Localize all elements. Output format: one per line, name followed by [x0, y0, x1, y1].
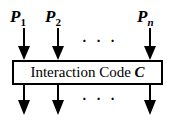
interaction-code-box: Interaction Code C: [12, 60, 163, 85]
input-ellipsis: · · ·: [82, 34, 118, 50]
output-ellipsis: · · ·: [82, 92, 118, 108]
